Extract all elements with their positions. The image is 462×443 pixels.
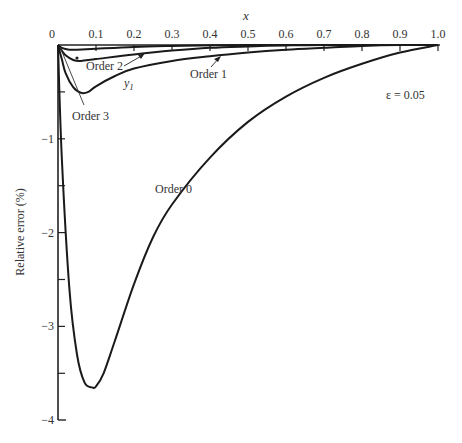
x-tick-label: 0.6 [279, 27, 294, 41]
y-tick-label: −2 [41, 226, 54, 240]
x-tick-label: 0.9 [393, 27, 408, 41]
curves [58, 45, 438, 388]
x-axis-label: x [242, 8, 249, 23]
y1-marker [75, 56, 78, 59]
relative-error-chart: 00.10.20.30.40.50.60.70.80.91.0 −1−2−3−4… [0, 0, 462, 443]
epsilon-annotation: ε = 0.05 [386, 88, 425, 102]
curve-order-0 [58, 45, 438, 388]
x-tick-label: 0.7 [317, 27, 332, 41]
y-tick-label: −1 [41, 132, 54, 146]
y-tick-label: −3 [41, 319, 54, 333]
label-order-0: Order 0 [155, 182, 192, 196]
x-tick-label: 0.5 [241, 27, 256, 41]
label-order-3: Order 3 [72, 109, 109, 123]
y-tick-label: −4 [41, 413, 54, 427]
x-tick-label: 1.0 [431, 27, 446, 41]
label-order-1: Order 1 [190, 67, 227, 81]
x-tick-label: 0.4 [203, 27, 218, 41]
label-y1: y1 [123, 76, 134, 92]
x-tick-label: 0.1 [89, 27, 104, 41]
x-tick-label: 0.3 [165, 27, 180, 41]
x-tick-label: 0 [49, 27, 55, 41]
x-tick-label: 0.2 [127, 27, 142, 41]
y-axis-label: Relative error (%) [13, 188, 27, 275]
label-order-2: Order 2 [86, 59, 123, 73]
x-tick-label: 0.8 [355, 27, 370, 41]
order-1-arrowhead [214, 56, 221, 62]
y1-leader-line [60, 47, 84, 105]
